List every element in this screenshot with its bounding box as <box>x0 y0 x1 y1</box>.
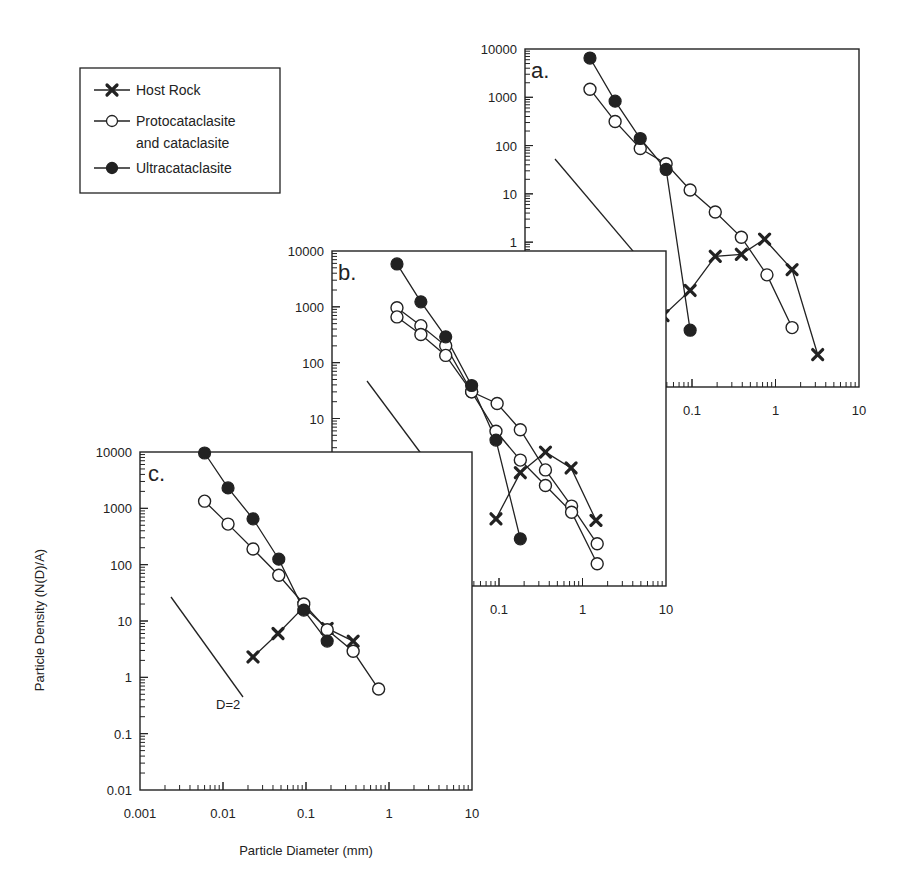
y-tick-label-c: 10000 <box>96 445 132 460</box>
legend: Host Rock Protocataclasite and cataclasi… <box>80 68 280 193</box>
y-tick-label-a: 100 <box>495 139 517 154</box>
data-point-proto-a <box>584 83 596 95</box>
y-tick-label-c: 0.01 <box>107 783 132 798</box>
data-point-ultra-c <box>222 482 234 494</box>
y-tick-label-a: 10 <box>503 187 517 202</box>
data-point-proto-c <box>222 518 234 530</box>
x-axis-title: Particle Diameter (mm) <box>239 843 373 858</box>
data-point-proto-a <box>684 184 696 196</box>
x-tick-label-b: 10 <box>659 602 673 617</box>
y-tick-label-c: 10 <box>118 614 132 629</box>
data-point-ultra-c <box>273 553 285 565</box>
y-tick-label-c: 1 <box>125 670 132 685</box>
data-point-ultra-c <box>321 635 333 647</box>
data-point-ultra-a <box>684 324 696 336</box>
data-point-proto-b <box>591 558 603 570</box>
particle-size-distribution-figure: Host Rock Protocataclasite and cataclasi… <box>0 0 900 890</box>
data-point-proto-c <box>273 569 285 581</box>
data-point-proto-a <box>609 115 621 127</box>
data-point-ultra-a <box>660 163 672 175</box>
data-point-proto-b <box>591 538 603 550</box>
y-tick-label-a: 1000 <box>488 90 517 105</box>
data-point-proto-b <box>415 328 427 340</box>
panel-label-a: a. <box>531 58 549 83</box>
x-tick-label-b: 1 <box>579 602 586 617</box>
legend-label-proto-line1: Protocataclasite <box>136 113 236 129</box>
data-point-ultra-b <box>490 434 502 446</box>
y-tick-label-c: 0.1 <box>114 727 132 742</box>
data-point-proto-b <box>539 480 551 492</box>
legend-label-ultra: Ultracataclasite <box>136 160 232 176</box>
panel-label-b: b. <box>338 260 356 285</box>
x-tick-label-a: 10 <box>852 403 866 418</box>
data-point-ultra-a <box>609 95 621 107</box>
y-tick-label-a: 1 <box>510 235 517 250</box>
reference-line-label-c: D=2 <box>216 697 240 712</box>
x-tick-label-c: 10 <box>465 806 479 821</box>
data-point-ultra-c <box>199 447 211 459</box>
x-tick-label-c: 0.01 <box>210 806 235 821</box>
data-point-proto-b <box>491 397 503 409</box>
data-point-proto-c <box>199 495 211 507</box>
y-tick-label-b: 1000 <box>295 300 324 315</box>
legend-label-proto-line2: and cataclasite <box>136 135 230 151</box>
data-point-proto-c <box>347 645 359 657</box>
data-point-proto-c <box>373 683 385 695</box>
data-point-proto-a <box>735 231 747 243</box>
x-tick-label-c: 1 <box>385 806 392 821</box>
data-point-ultra-b <box>415 296 427 308</box>
data-point-proto-a <box>709 206 721 218</box>
legend-label-host: Host Rock <box>136 82 202 98</box>
data-point-proto-c <box>321 624 333 636</box>
data-point-proto-b <box>440 349 452 361</box>
data-point-proto-b <box>539 464 551 476</box>
data-point-ultra-b <box>514 533 526 545</box>
y-tick-label-c: 1000 <box>103 501 132 516</box>
panel-label-c: c. <box>148 461 165 486</box>
x-tick-label-a: 0.1 <box>683 403 701 418</box>
data-point-ultra-c <box>247 513 259 525</box>
data-point-proto-c <box>247 543 259 555</box>
data-point-proto-a <box>761 269 773 281</box>
data-point-proto-b <box>514 424 526 436</box>
legend-open-circle-icon <box>107 116 118 127</box>
data-point-ultra-c <box>298 604 310 616</box>
y-tick-label-b: 10000 <box>288 244 324 259</box>
legend-filled-circle-icon <box>107 163 118 174</box>
y-axis-title: Particle Density (N(D)/A) <box>32 549 47 691</box>
x-tick-label-a: 1 <box>772 403 779 418</box>
plot-area-c <box>140 452 472 790</box>
data-point-ultra-b <box>391 258 403 270</box>
x-tick-label-c: 0.1 <box>297 806 315 821</box>
y-tick-label-c: 100 <box>110 558 132 573</box>
data-point-ultra-a <box>584 52 596 64</box>
y-tick-label-b: 100 <box>302 356 324 371</box>
y-tick-label-b: 10 <box>310 412 324 427</box>
data-point-ultra-b <box>440 331 452 343</box>
data-point-ultra-b <box>466 379 478 391</box>
x-tick-label-c: 0.001 <box>124 806 157 821</box>
y-tick-label-a: 10000 <box>481 42 517 57</box>
x-tick-label-b: 0.1 <box>490 602 508 617</box>
data-point-proto-b <box>391 311 403 323</box>
data-point-proto-a <box>786 322 798 334</box>
data-point-proto-b <box>566 506 578 518</box>
panel-c: 1000010001001010.10.010.0010.010.1110c.D… <box>96 445 479 821</box>
data-point-proto-b <box>514 454 526 466</box>
data-point-ultra-a <box>634 133 646 145</box>
